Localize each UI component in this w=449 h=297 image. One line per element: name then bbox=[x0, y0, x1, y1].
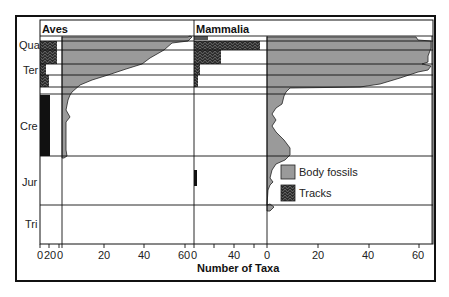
mammal-tracks-qua bbox=[194, 41, 260, 50]
period-label-jur: Jur bbox=[22, 176, 38, 188]
period-label-qua: Qua bbox=[19, 39, 41, 51]
aves-tracks-ter1 bbox=[40, 50, 57, 64]
panel-title-mammalia: Mammalia bbox=[196, 23, 250, 35]
tick-aves-tracks-0: 0 bbox=[37, 249, 43, 261]
aves-tracks-cre bbox=[40, 95, 50, 156]
aves-tracks-ter3 bbox=[40, 75, 49, 87]
tick-aves-tracks-20: 20 bbox=[44, 249, 56, 261]
period-label-tri: Tri bbox=[25, 218, 37, 230]
tick-mammal-tracks-60: 0 bbox=[191, 249, 197, 261]
mammal-tracks-ter3 bbox=[194, 75, 198, 87]
tick-mammal-body-60: 60 bbox=[412, 249, 424, 261]
period-label-ter: Ter bbox=[23, 64, 39, 76]
tick-aves-body-0: 0 bbox=[57, 249, 63, 261]
tick-mammal-tracks-40: 40 bbox=[228, 249, 240, 261]
tick-mammal-body-20: 20 bbox=[312, 249, 324, 261]
mammal-tracks-ter1 bbox=[194, 50, 221, 64]
mammal-tracks-ter2 bbox=[194, 64, 200, 75]
period-label-cre: Cre bbox=[20, 120, 38, 132]
panel-title-aves: Aves bbox=[42, 23, 68, 35]
taxa-chart: Aves Mammalia Qua Ter Cre Jur Tri 0 20 0… bbox=[0, 0, 449, 297]
aves-tracks-ter2 bbox=[40, 64, 46, 75]
tick-aves-body-20: 20 bbox=[98, 249, 110, 261]
legend-label-tracks: Tracks bbox=[299, 187, 332, 199]
legend-swatch-body-fossils bbox=[281, 165, 295, 179]
tick-mammal-body-40: 40 bbox=[362, 249, 374, 261]
aves-body-fossil-area bbox=[62, 36, 192, 158]
legend-swatch-tracks bbox=[281, 185, 295, 201]
aves-tracks-qua bbox=[40, 41, 57, 50]
tick-mammal-tracks-0: 0 bbox=[264, 249, 270, 261]
tick-aves-body-40: 40 bbox=[138, 249, 150, 261]
legend-label-body-fossils: Body fossils bbox=[299, 166, 358, 178]
tick-aves-body-60: 60 bbox=[178, 249, 190, 261]
x-axis-label: Number of Taxa bbox=[197, 262, 280, 274]
